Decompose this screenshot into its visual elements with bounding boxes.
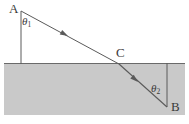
incident-ray — [21, 11, 119, 64]
label-angle-theta1: θ1 — [22, 16, 31, 28]
theta1-subscript: 1 — [27, 20, 31, 29]
theta2-subscript: 2 — [156, 87, 160, 96]
refraction-diagram: A B C θ1 θ2 — [0, 0, 189, 124]
label-point-c: C — [116, 46, 125, 59]
label-angle-theta2: θ2 — [151, 83, 160, 95]
incident-ray-arrow-icon — [60, 30, 68, 36]
label-point-b: B — [171, 100, 180, 113]
label-point-a: A — [9, 2, 18, 15]
